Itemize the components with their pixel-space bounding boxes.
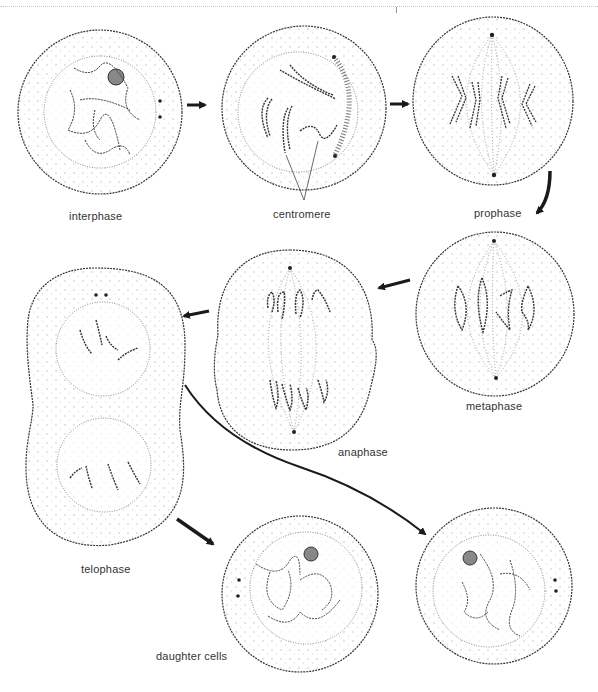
label-interphase: interphase <box>69 210 122 222</box>
arrow-prophase-to-metaphase <box>537 171 550 213</box>
label-metaphase: metaphase <box>466 400 522 412</box>
arrow-telophase-to-daughter-1 <box>177 519 213 544</box>
interphase-cell <box>18 30 182 194</box>
telophase-cell <box>26 268 185 546</box>
anaphase-cell <box>214 250 376 450</box>
daughter-cell-1 <box>222 516 378 672</box>
mitosis-diagram <box>0 0 598 692</box>
prophase-cell <box>413 17 573 185</box>
centriole-icon <box>158 115 162 119</box>
centriole-icon <box>158 99 162 103</box>
daughter-cell-2 <box>416 508 572 664</box>
label-prophase: prophase <box>474 207 521 219</box>
arrow-anaphase-to-telophase <box>184 311 209 316</box>
label-telophase: telophase <box>81 563 131 575</box>
early-prophase-cell <box>222 26 386 200</box>
arrow-metaphase-to-anaphase <box>379 280 410 288</box>
label-centromere: centromere <box>273 208 331 220</box>
metaphase-cell <box>416 232 574 396</box>
label-anaphase: anaphase <box>338 446 388 458</box>
label-daughter-cells: daughter cells <box>156 650 227 662</box>
